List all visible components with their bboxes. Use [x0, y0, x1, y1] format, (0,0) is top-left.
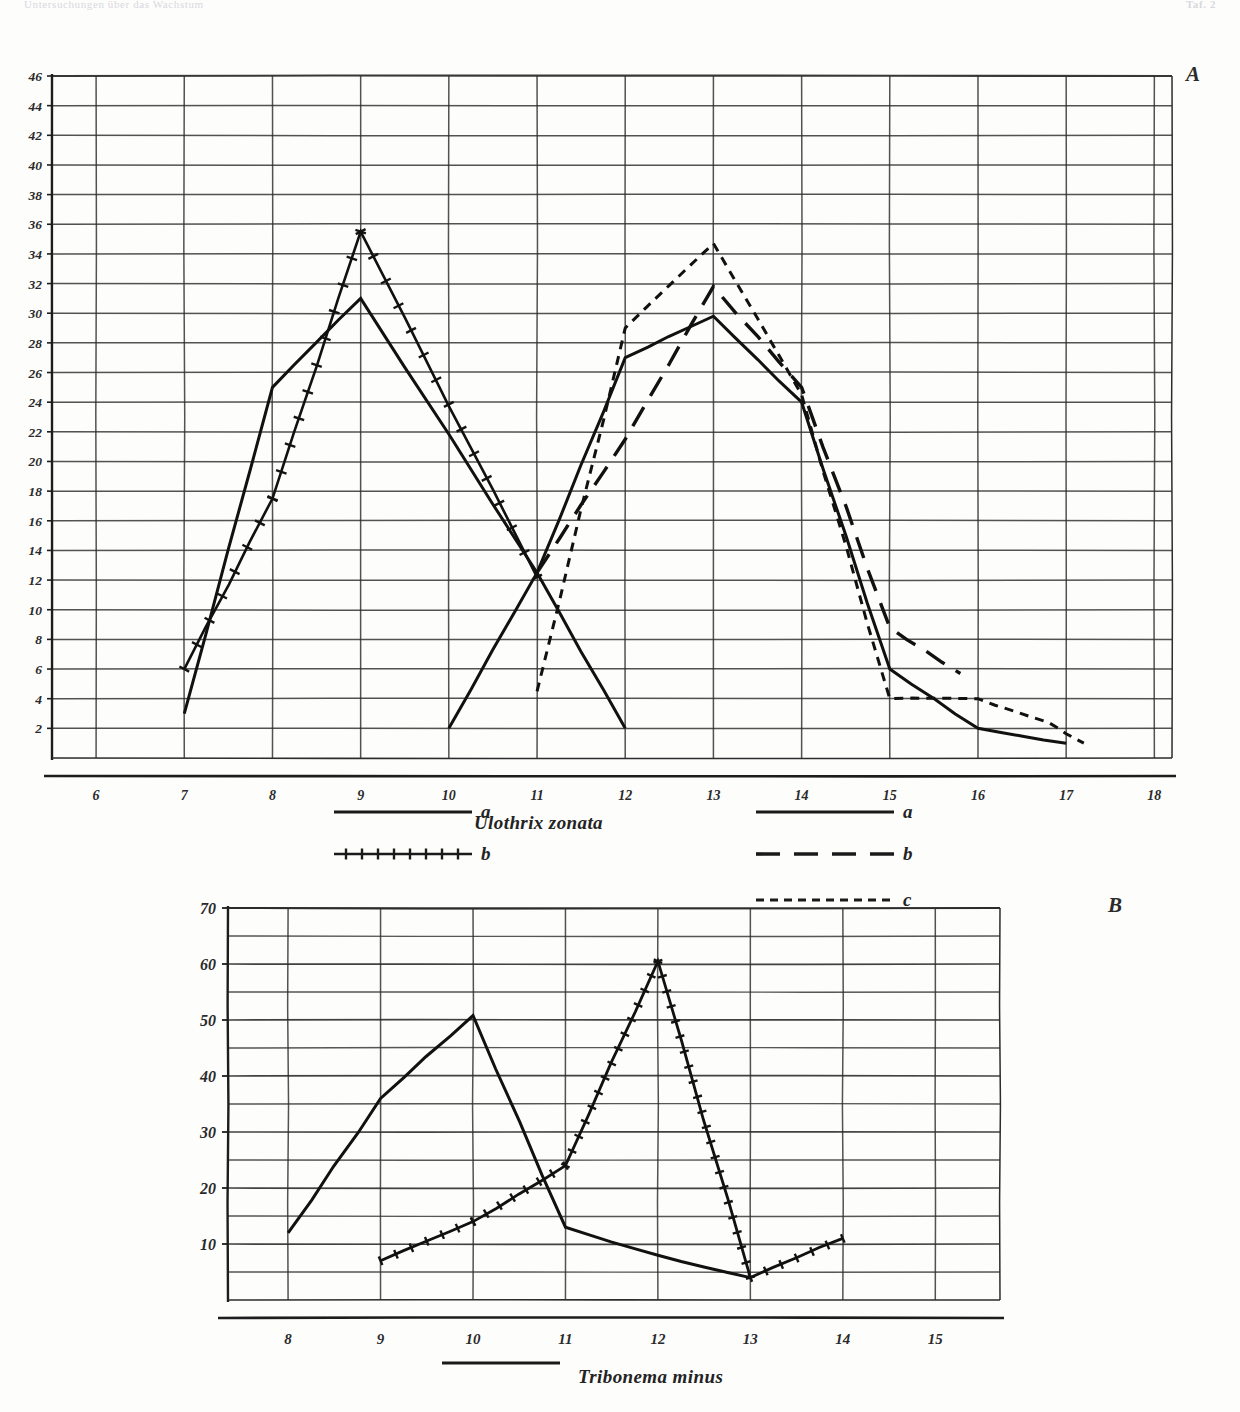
x-tick-label-b: 12	[650, 1331, 666, 1347]
series-line-a-left	[184, 298, 625, 728]
y-tick-label-a: 34	[28, 247, 43, 262]
gridline-vertical	[889, 76, 890, 758]
legend-b	[440, 1356, 590, 1386]
y-tick-label-a: 46	[28, 69, 43, 84]
chart-panel-a: 2468101214161820222426283032343638404244…	[0, 0, 1240, 800]
legend-key-solid	[440, 1356, 562, 1370]
gridline-vertical	[801, 76, 802, 758]
species-name-bottom: Tribonema minus	[578, 1366, 723, 1388]
y-tick-label-b: 70	[200, 900, 216, 917]
gridline-vertical	[96, 76, 97, 758]
y-tick-label-a: 10	[29, 603, 43, 618]
y-tick-label-b: 40	[199, 1068, 216, 1085]
x-tick-label-a: 16	[971, 788, 985, 800]
gridline-vertical	[1154, 76, 1155, 758]
y-tick-label-a: 18	[29, 484, 43, 499]
legend-label: a	[903, 802, 913, 821]
x-tick-label-a: 14	[795, 788, 809, 800]
y-tick-label-a: 38	[28, 188, 43, 203]
species-name-top: Ulothrix zonata	[474, 812, 603, 834]
y-tick-label-a: 12	[29, 573, 43, 588]
legend-item-a-right-1: b	[754, 844, 913, 863]
chart-panel-b: 1020304050607089101112131415	[0, 880, 1240, 1350]
chart-a-frame-right	[1172, 76, 1173, 758]
x-tick-label-a: 13	[706, 788, 720, 800]
figure-page: Untersuchungen über das Wachstum Taf. 2 …	[0, 0, 1240, 1412]
chart-b-x-axis	[218, 1318, 1004, 1319]
legend-item-a-right-0: a	[754, 802, 913, 821]
legend-item-a-left-1: b	[332, 844, 491, 863]
legend-key-long-dash	[754, 847, 896, 861]
gridline-vertical	[625, 76, 626, 758]
y-tick-label-a: 30	[28, 306, 43, 321]
x-tick-label-b: 14	[835, 1331, 851, 1347]
y-tick-label-a: 4	[34, 692, 42, 707]
y-tick-label-b: 10	[200, 1236, 216, 1253]
y-tick-label-a: 28	[28, 336, 43, 351]
chart-a-gridlines	[52, 76, 1172, 758]
gridline-vertical	[272, 76, 273, 758]
y-tick-label-a: 36	[28, 217, 43, 232]
series-line-b-cross-hatched	[381, 961, 843, 1277]
y-tick-label-a: 6	[35, 662, 42, 677]
x-tick-label-b: 13	[743, 1331, 759, 1347]
y-tick-label-a: 22	[28, 425, 43, 440]
y-tick-label-a: 26	[28, 366, 43, 381]
x-tick-label-a: 9	[357, 788, 364, 800]
chart-b-canvas: 1020304050607089101112131415	[0, 880, 1240, 1350]
y-tick-label-a: 24	[28, 395, 43, 410]
x-tick-label-a: 6	[93, 788, 100, 800]
y-tick-label-a: 32	[28, 277, 43, 292]
series-line-b-solid	[288, 1016, 750, 1278]
series-line-a-right	[449, 316, 1066, 743]
legend-label: b	[481, 844, 491, 863]
chart-a-canvas: 2468101214161820222426283032343638404244…	[0, 0, 1240, 800]
chart-b-y-axis	[228, 906, 229, 1302]
legend-key-solid	[332, 805, 474, 819]
y-tick-label-a: 14	[29, 543, 43, 558]
y-tick-label-a: 42	[28, 128, 43, 143]
x-tick-label-b: 9	[377, 1331, 385, 1347]
x-tick-label-a: 12	[618, 788, 632, 800]
y-tick-label-b: 30	[199, 1124, 216, 1141]
y-tick-label-a: 8	[35, 632, 42, 647]
y-tick-label-a: 20	[28, 454, 43, 469]
x-tick-label-a: 17	[1059, 788, 1074, 800]
x-tick-label-a: 10	[442, 788, 456, 800]
y-tick-label-a: 2	[34, 721, 42, 736]
gridline-vertical	[448, 76, 449, 758]
x-tick-label-b: 11	[558, 1331, 572, 1347]
legend-item-b-0	[440, 1356, 562, 1370]
x-tick-label-b: 10	[466, 1331, 482, 1347]
y-tick-label-a: 16	[29, 514, 43, 529]
y-tick-label-a: 40	[28, 158, 43, 173]
chart-a-series	[184, 232, 1084, 744]
chart-b-frame-right	[1000, 908, 1001, 1300]
legend-key-solid	[754, 805, 896, 819]
x-tick-label-b: 8	[284, 1331, 292, 1347]
y-tick-label-b: 60	[200, 956, 216, 973]
x-tick-label-b: 15	[928, 1331, 944, 1347]
legend-item-a-left-0: a	[332, 802, 491, 821]
x-tick-label-a: 11	[530, 788, 543, 800]
x-tick-label-a: 7	[181, 788, 189, 800]
gridline-vertical	[184, 76, 185, 758]
x-tick-label-a: 8	[269, 788, 276, 800]
y-tick-label-a: 44	[28, 99, 43, 114]
x-tick-label-a: 18	[1147, 788, 1161, 800]
x-tick-label-a: 15	[883, 788, 897, 800]
legend-label: b	[903, 844, 913, 863]
legend-key-cross-hatched	[332, 846, 474, 862]
series-line-b-right	[537, 287, 960, 674]
gridline-vertical	[537, 76, 538, 758]
y-tick-label-b: 20	[199, 1180, 216, 1197]
y-tick-label-b: 50	[200, 1012, 216, 1029]
